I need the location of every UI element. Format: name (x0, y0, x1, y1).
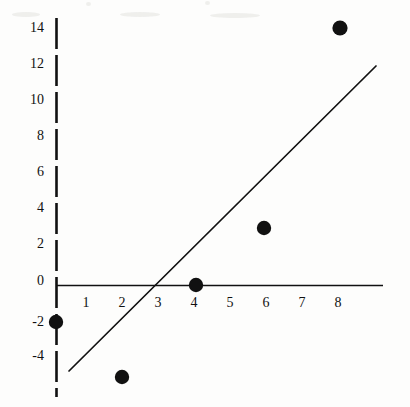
data-point-marker (257, 221, 271, 235)
fit-line (69, 66, 376, 371)
y-tick-label-6: 6 (18, 165, 44, 179)
x-tick-label-2: 2 (119, 296, 126, 310)
y-tick-label-4: 4 (18, 201, 44, 215)
x-tick-label-4: 4 (191, 296, 198, 310)
data-point-marker (189, 278, 203, 292)
x-tick-label-6: 6 (263, 296, 270, 310)
x-tick-label-3: 3 (155, 296, 162, 310)
y-tick-label-neg4: -4 (14, 349, 44, 363)
y-tick-label-10: 10 (18, 93, 44, 107)
x-tick-label-5: 5 (227, 296, 234, 310)
plot-canvas (0, 0, 410, 407)
x-tick-label-1: 1 (83, 296, 90, 310)
y-tick-label-2: 2 (18, 237, 44, 251)
x-tick-label-7: 7 (299, 296, 306, 310)
data-point-marker (115, 370, 129, 384)
data-point-marker (49, 315, 63, 329)
x-tick-label-8: 8 (335, 296, 342, 310)
y-tick-label-0: 0 (18, 274, 44, 288)
y-tick-label-14: 14 (18, 21, 44, 35)
data-point-marker (332, 20, 347, 35)
y-tick-label-12: 12 (18, 57, 44, 71)
y-tick-label-8: 8 (18, 129, 44, 143)
scatter-plot-figure: 14 12 10 8 6 4 2 0 -2 -4 1 2 3 4 5 6 7 8 (0, 0, 410, 407)
y-tick-label-neg2: -2 (14, 315, 44, 329)
